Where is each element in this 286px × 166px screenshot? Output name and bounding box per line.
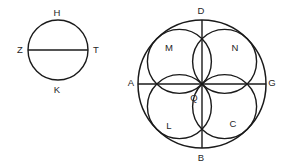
label-T: T [93, 44, 99, 55]
label-G: G [268, 77, 275, 88]
label-M: M [165, 42, 173, 53]
label-Z: Z [17, 44, 23, 55]
figure-canvas: H Z T K D M N A G Q L C B [0, 0, 286, 166]
diagram-svg: H Z T K D M N A G Q L C B [0, 0, 286, 166]
label-A: A [128, 77, 135, 88]
label-N: N [232, 42, 239, 53]
label-H: H [54, 7, 61, 18]
right-figure-group: D M N A G Q L C B [128, 5, 276, 163]
label-D: D [198, 5, 205, 16]
label-L: L [166, 120, 171, 131]
label-B: B [198, 152, 204, 163]
left-figure-group: H Z T K [17, 7, 99, 95]
label-K: K [54, 84, 61, 95]
label-C: C [230, 118, 237, 129]
label-Q: Q [190, 92, 197, 103]
